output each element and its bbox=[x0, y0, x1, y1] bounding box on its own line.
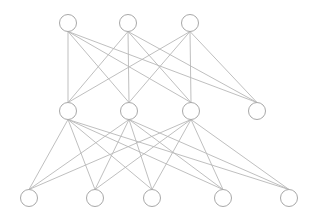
layer-2-node-1 bbox=[60, 103, 77, 120]
layer-3-node-2 bbox=[87, 190, 104, 207]
edge-line bbox=[68, 120, 289, 190]
edge-line bbox=[128, 32, 257, 103]
edge-line bbox=[152, 120, 191, 190]
layer-2-node-4 bbox=[249, 103, 266, 120]
layer-3-node-4 bbox=[215, 190, 232, 207]
layer-1-node-3 bbox=[182, 15, 199, 32]
edge-line bbox=[68, 32, 257, 103]
neural-network-diagram bbox=[0, 0, 320, 223]
edge-line bbox=[129, 120, 152, 190]
layer-3-node-3 bbox=[144, 190, 161, 207]
edge-line bbox=[191, 120, 289, 190]
edge-line bbox=[190, 32, 257, 103]
edge-line bbox=[191, 120, 223, 190]
edge-line bbox=[29, 120, 68, 190]
layer-2-node-2 bbox=[121, 103, 138, 120]
layer-1-node-2 bbox=[120, 15, 137, 32]
layer-3-node-5 bbox=[281, 190, 298, 207]
edge-line bbox=[29, 120, 129, 190]
edge-line bbox=[190, 32, 191, 103]
layer-3-node-1 bbox=[21, 190, 38, 207]
edge-line bbox=[129, 32, 190, 103]
layer-2-node-3 bbox=[183, 103, 200, 120]
layer-1-node-1 bbox=[60, 15, 77, 32]
